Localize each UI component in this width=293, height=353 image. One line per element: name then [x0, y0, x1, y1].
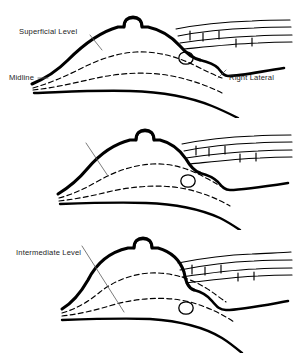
- deep-level-illustration: [0, 230, 293, 353]
- nipple-apex: [134, 239, 152, 248]
- nodule: [181, 175, 195, 187]
- figure-root: Superficial Level Midline Right Lateral: [0, 0, 293, 353]
- orientation-label-midline: Midline: [9, 74, 34, 82]
- panel-superficial: Superficial Level Midline Right Lateral: [0, 0, 293, 118]
- panel-label-superficial: Superficial Level: [19, 28, 77, 36]
- leader-line-intermediate: [86, 143, 108, 176]
- chest-wall-baseline: [34, 91, 238, 118]
- chest-wall-baseline: [60, 203, 240, 230]
- lateral-bands: [178, 252, 292, 283]
- chest-wall-baseline: [62, 319, 242, 353]
- lateral-bands: [176, 20, 292, 49]
- dome-contour: [62, 238, 194, 309]
- nodule: [179, 302, 193, 314]
- dome-contour: [58, 130, 200, 194]
- lateral-contour: [194, 290, 288, 310]
- orientation-label-right-lateral: Right Lateral: [229, 74, 274, 82]
- panel-intermediate: Intermediate Level: [0, 118, 293, 230]
- intermediate-level-illustration: [0, 118, 293, 230]
- lateral-bands: [182, 135, 292, 164]
- nipple-apex: [124, 18, 142, 27]
- panel-deep: Deep Level: [0, 230, 293, 353]
- superficial-level-illustration: [0, 0, 293, 118]
- nipple-apex: [136, 131, 154, 140]
